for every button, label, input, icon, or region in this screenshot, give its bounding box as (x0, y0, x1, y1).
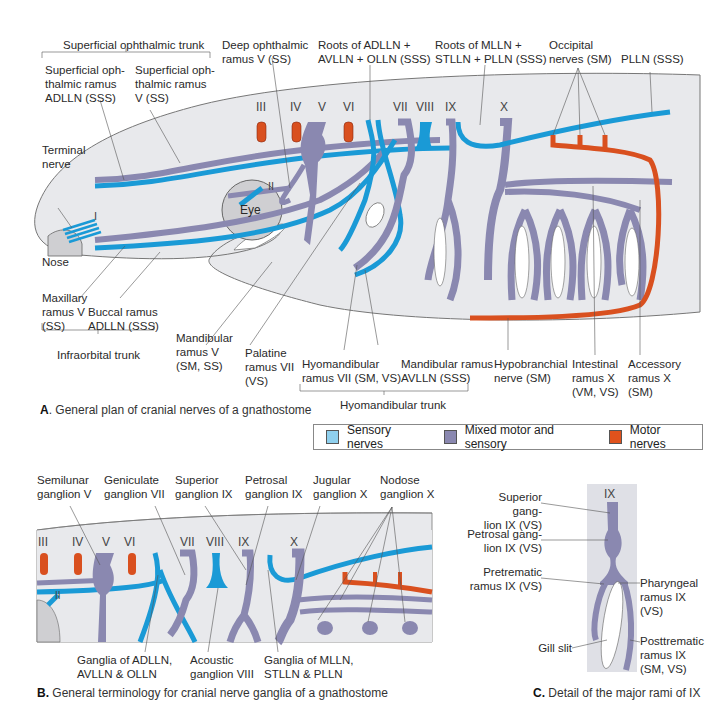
c-nerve-num-ix: IX (604, 487, 615, 501)
label-c-posttrematic-ramus: Posttrematic ramus IX (SM, VS) (640, 634, 704, 676)
label-c-petrosal-ganglion: Petrosal gang- lion IX (VS) (467, 527, 542, 555)
label-c-pharyngeal-ramus: Pharyngeal ramus IX (VS) (640, 576, 712, 618)
label-c-gill-slit: Gill slit (500, 641, 572, 655)
label-c-pretrematic-ramus: Pretrematic ramus IX (VS) (457, 565, 542, 593)
panel-c-diagram (0, 0, 712, 709)
caption-panel-c: C. Detail of the major rami of IX (533, 686, 700, 700)
label-c-superior-ganglion: Superior gang- lion IX (VS) (467, 490, 542, 532)
